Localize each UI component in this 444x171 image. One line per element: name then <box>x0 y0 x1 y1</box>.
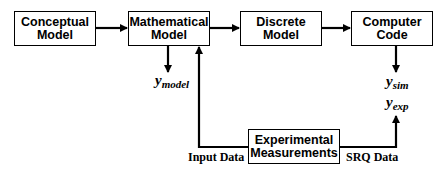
output-y-sim: ysim <box>386 73 409 91</box>
node-experimental-measurements: Experimental Measurements <box>248 129 340 164</box>
node-mathematical-model: Mathematical Model <box>128 11 210 46</box>
arrow-srq-data <box>340 116 396 147</box>
node-discrete-model: Discrete Model <box>240 11 322 46</box>
node-label: Discrete Model <box>256 16 305 42</box>
node-label: Conceptual Model <box>21 16 89 42</box>
output-y-exp: yexp <box>386 94 409 112</box>
node-label: Computer Code <box>362 16 421 42</box>
output-y-model: ymodel <box>155 72 189 90</box>
node-label: Mathematical Model <box>129 16 208 42</box>
label-srq-data: SRQ Data <box>346 150 398 165</box>
node-computer-code: Computer Code <box>351 11 433 46</box>
node-label: Experimental Measurements <box>250 134 338 160</box>
node-conceptual-model: Conceptual Model <box>14 11 96 46</box>
arrow-input-data <box>199 47 248 147</box>
label-input-data: Input Data <box>188 150 244 165</box>
